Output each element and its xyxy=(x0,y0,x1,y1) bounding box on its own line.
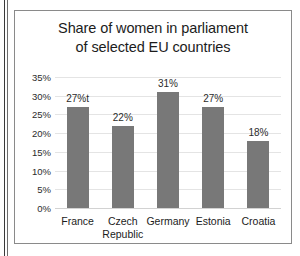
y-axis-tick-label: 25% xyxy=(32,109,51,120)
bar[interactable] xyxy=(202,107,224,208)
bar-value-label: 27% xyxy=(203,93,223,104)
chart-container: Share of women in parliament of selected… xyxy=(14,10,292,244)
x-axis-category-line: Czech xyxy=(102,215,143,228)
x-axis-category-line: France xyxy=(61,215,94,228)
page-edge-rule-secondary xyxy=(7,0,8,256)
x-axis-category-line: Republic xyxy=(102,228,143,241)
bar-group: 18%Croatia xyxy=(236,77,281,208)
bar-value-label: 31% xyxy=(158,78,178,89)
x-axis-category-label: CzechRepublic xyxy=(102,215,143,241)
plot-area: 0%5%10%15%20%25%30%35%27%tFrance22%Czech… xyxy=(55,77,281,208)
y-axis-tick-label: 10% xyxy=(32,165,51,176)
bar-value-label: 27%t xyxy=(66,93,89,104)
chart-title-line-2: of selected EU countries xyxy=(15,38,291,57)
bar[interactable] xyxy=(67,107,89,208)
x-axis-category-label: Croatia xyxy=(241,215,275,228)
bar-value-label: 22% xyxy=(113,112,133,123)
bar-value-label: 18% xyxy=(248,127,268,138)
y-axis-tick-label: 35% xyxy=(32,72,51,83)
page-edge-rule xyxy=(4,0,5,256)
gridline xyxy=(55,208,281,209)
chart-title: Share of women in parliament of selected… xyxy=(15,19,291,56)
bar[interactable] xyxy=(247,141,269,208)
y-axis-tick-label: 20% xyxy=(32,128,51,139)
bar-group: 27%Estonia xyxy=(191,77,236,208)
bar[interactable] xyxy=(112,126,134,208)
x-axis-category-line: Germany xyxy=(146,215,189,228)
bar-group: 22%CzechRepublic xyxy=(100,77,145,208)
y-axis-tick-label: 5% xyxy=(37,184,51,195)
bar-group: 31%Germany xyxy=(145,77,190,208)
x-axis-category-label: Estonia xyxy=(196,215,231,228)
y-axis-tick-label: 15% xyxy=(32,146,51,157)
x-axis-category-label: France xyxy=(61,215,94,228)
y-axis-tick-label: 0% xyxy=(37,203,51,214)
y-axis-tick-label: 30% xyxy=(32,90,51,101)
x-axis-category-label: Germany xyxy=(146,215,189,228)
x-axis-category-line: Estonia xyxy=(196,215,231,228)
x-axis-category-line: Croatia xyxy=(241,215,275,228)
chart-title-line-1: Share of women in parliament xyxy=(15,19,291,38)
bar-group: 27%tFrance xyxy=(55,77,100,208)
bar[interactable] xyxy=(157,92,179,208)
